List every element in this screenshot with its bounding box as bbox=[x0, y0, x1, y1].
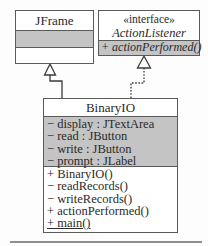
class-name: ActionListener bbox=[99, 26, 199, 40]
operation: + actionPerformed() bbox=[99, 41, 199, 54]
generalization-line bbox=[50, 75, 62, 98]
stereotype-label: «interface» bbox=[99, 13, 199, 26]
static-operation: + main() bbox=[44, 217, 177, 229]
attribute: − prompt : JLabel bbox=[44, 155, 177, 167]
class-name-compartment: JFrame bbox=[16, 11, 93, 31]
class-jframe: JFrame bbox=[15, 10, 94, 64]
realization-arrowhead-icon bbox=[138, 56, 151, 68]
attributes-compartment: − display : JTextArea − read : JButton −… bbox=[44, 117, 177, 167]
class-name-compartment: BinaryIO bbox=[44, 99, 177, 117]
generalization-arrowhead-icon bbox=[45, 64, 56, 75]
class-name: BinaryIO bbox=[86, 100, 135, 115]
operation: − readRecords() bbox=[44, 180, 177, 192]
operations-compartment bbox=[16, 48, 93, 63]
operations-compartment: + actionPerformed() bbox=[99, 41, 199, 55]
operations-compartment: + BinaryIO() − readRecords() − writeReco… bbox=[44, 167, 177, 232]
class-name-compartment: «interface» ActionListener bbox=[99, 11, 199, 41]
class-binary-io: BinaryIO − display : JTextArea − read : … bbox=[43, 98, 178, 233]
attributes-compartment bbox=[16, 31, 93, 48]
realization-line bbox=[131, 68, 144, 98]
attribute: − read : JButton bbox=[44, 130, 177, 142]
interface-action-listener: «interface» ActionListener + actionPerfo… bbox=[98, 10, 200, 56]
class-name: JFrame bbox=[35, 13, 73, 28]
